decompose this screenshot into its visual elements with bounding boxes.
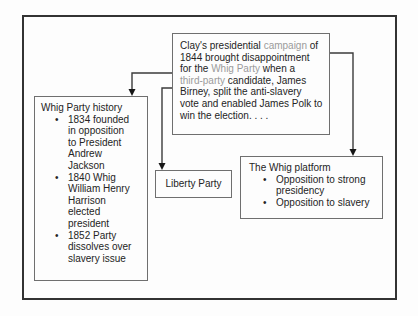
- vocab-term: Whig Party: [211, 63, 260, 74]
- bullet-icon: •: [55, 230, 68, 265]
- vocab-term: campaign: [264, 40, 307, 51]
- bullet-item: •1840 Whig William Henry Harrison electe…: [55, 172, 143, 230]
- text-run: when a: [260, 63, 295, 74]
- whig-history-bullet-list: •1834 founded in opposition to President…: [41, 114, 143, 265]
- bullet-icon: •: [263, 174, 276, 197]
- bullet-item: •Opposition to slavery: [263, 197, 378, 209]
- liberty-party-box: Liberty Party: [155, 170, 232, 198]
- diagram-canvas: Clay's presidential campaign of 1844 bro…: [0, 0, 418, 316]
- bullet-icon: •: [55, 114, 68, 172]
- text-run: Clay's presidential: [180, 40, 264, 51]
- bullet-text: 1834 founded in opposition to President …: [68, 114, 143, 172]
- whig-history-title: Whig Party history: [41, 102, 143, 114]
- whig-platform-title: The Whig platform: [249, 162, 378, 174]
- whig-platform-bullet-list: •Opposition to strong presidency•Opposit…: [249, 174, 378, 209]
- bullet-item: •1852 Party dissolves over slavery issue: [55, 230, 143, 265]
- bullet-text: Opposition to slavery: [276, 197, 378, 209]
- bullet-icon: •: [55, 172, 68, 230]
- main-quote-box: Clay's presidential campaign of 1844 bro…: [172, 33, 330, 135]
- whig-platform-box: The Whig platform •Opposition to strong …: [240, 156, 383, 219]
- main-quote-text: Clay's presidential campaign of 1844 bro…: [180, 40, 325, 121]
- vocab-term: third-party: [180, 75, 225, 86]
- bullet-text: Opposition to strong presidency: [276, 174, 378, 197]
- bullet-text: 1840 Whig William Henry Harrison elected…: [68, 172, 143, 230]
- bullet-icon: •: [263, 197, 276, 209]
- bullet-item: •1834 founded in opposition to President…: [55, 114, 143, 172]
- bullet-item: •Opposition to strong presidency: [263, 174, 378, 197]
- whig-history-box: Whig Party history •1834 founded in oppo…: [34, 96, 148, 281]
- liberty-party-label: Liberty Party: [165, 178, 221, 190]
- bullet-text: 1852 Party dissolves over slavery issue: [68, 230, 143, 265]
